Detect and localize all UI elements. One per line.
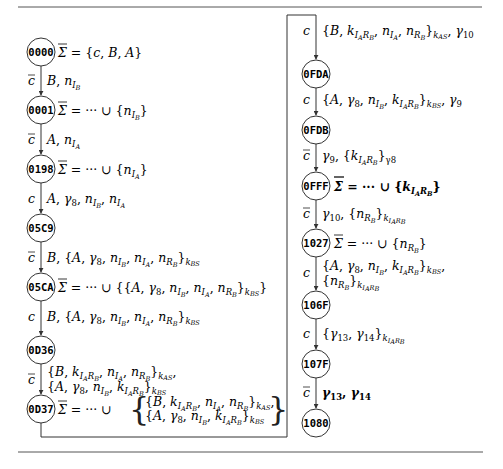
svg-text:}: } <box>268 390 288 428</box>
edge-label-0001-0198: c A, nIA <box>28 132 80 151</box>
svg-text:{B, kIARB, nIA, nRB}kAS, γ10: {B, kIARB, nIA, nRB}kAS, γ10 <box>322 23 474 42</box>
state-id-label: 05C9 <box>28 222 53 234</box>
sigma-annotation-0001: Σ = ··· ∪ {nIB} <box>57 102 148 122</box>
edge-label-05CA-0D36: c B, {A, γ8, nIB, nIA, nRB}kBS <box>28 309 200 328</box>
svg-text:B, {A, γ8, nIB, nIA, nRB}kBS: B, {A, γ8, nIB, nIA, nRB}kBS <box>46 250 200 269</box>
edge-label-106F-107F: c {γ13, γ14}kIARB <box>303 326 405 346</box>
svg-text:{A, γ8, nIB, kIARB}kBS, γ9: {A, γ8, nIB, kIARB}kBS, γ9 <box>322 92 462 111</box>
svg-text:Σ = ··· ∪ {nIB}: Σ = ··· ∪ {nIB} <box>57 103 148 122</box>
svg-text:Σ = ··· ∪ {nRB}: Σ = ··· ∪ {nRB} <box>333 236 427 255</box>
state-id-label: 0198 <box>28 163 53 175</box>
edge-label-0D36-0D37: c {B, kIARB, nIA, nRB}kAS, {A, γ8, nIB, … <box>28 364 176 398</box>
state-id-label: 0001 <box>28 104 53 116</box>
svg-text:Σ = ··· ∪ {nIA}: Σ = ··· ∪ {nIA} <box>57 162 148 181</box>
state-node-05C9: 05C9 <box>27 214 55 242</box>
edge-label-05C9-05CA: c B, {A, γ8, nIB, nIA, nRB}kBS <box>28 250 200 269</box>
edge-label-107F-1080: c γ13, γ14 <box>303 385 371 402</box>
sigma-annotation-0000: Σ = {c, B, A} <box>57 44 142 60</box>
state-node-0000: 0000 <box>27 38 55 66</box>
edge-label-0000-0001: c B, nIB <box>28 73 81 92</box>
svg-text:A, nIA: A, nIA <box>46 132 80 151</box>
svg-text:c: c <box>28 309 35 324</box>
svg-text:Σ = ··· ∪ {kIARB}: Σ = ··· ∪ {kIARB} <box>333 179 441 198</box>
state-id-label: 0000 <box>28 46 53 58</box>
edge-label-0FDB-0FFF: c γ9, {kIARB}γ8 <box>303 148 396 167</box>
svg-text:A, γ8, nIB, nIA: A, γ8, nIB, nIA <box>46 191 125 210</box>
state-id-label: 1027 <box>303 237 328 249</box>
svg-text:c: c <box>303 92 310 107</box>
state-node-107F: 107F <box>302 350 330 378</box>
edge-label-0D37-0FDA: c {B, kIARB, nIA, nRB}kAS, γ10 <box>303 23 474 42</box>
edge-label-0198-05C9: c A, γ8, nIB, nIA <box>28 191 125 210</box>
svg-text:{A, γ8, nIB, kIARB}kBS: {A, γ8, nIB, kIARB}kBS <box>145 408 265 427</box>
sigma-annotation-0198: Σ = ··· ∪ {nIA} <box>57 161 148 181</box>
state-node-05CA: 05CA <box>27 273 55 301</box>
state-id-label: 05CA <box>28 281 54 293</box>
edge-label-1027-106F: c {A, γ8, nIB, kIARB}kBS, {nRB}kIARB <box>303 258 445 293</box>
state-id-label: 0D37 <box>28 403 53 415</box>
edge-label-0FDA-0FDB: c {A, γ8, nIB, kIARB}kBS, γ9 <box>303 92 462 111</box>
svg-text:Σ = ··· ∪ {{A, γ8, nIB, nIA, n: Σ = ··· ∪ {{A, γ8, nIB, nIA, nRB}kBS} <box>57 280 267 299</box>
svg-text:{nRB}kIARB: {nRB}kIARB <box>322 273 380 293</box>
svg-text:Σ = ··· ∪: Σ = ··· ∪ <box>57 402 112 417</box>
state-node-0D36: 0D36 <box>27 336 55 364</box>
edge-label-0FFF-1027: c γ10, {nRB}kIARB <box>303 206 406 226</box>
svg-text:Σ = {c, B, A}: Σ = {c, B, A} <box>57 45 142 60</box>
state-id-label: 0D36 <box>28 344 53 356</box>
svg-text:c: c <box>303 23 310 38</box>
state-id-label: 0FFF <box>303 180 328 192</box>
state-node-0FDA: 0FDA <box>302 60 330 88</box>
state-id-label: 0FDA <box>303 68 329 80</box>
svg-text:B, nIB: B, nIB <box>46 73 81 92</box>
svg-text:c: c <box>28 191 35 206</box>
state-id-label: 0FDB <box>303 124 328 136</box>
svg-text:{A, γ8, nIB, kIARB}kBS,: {A, γ8, nIB, kIARB}kBS, <box>322 258 445 277</box>
state-node-0198: 0198 <box>27 155 55 183</box>
state-node-106F: 106F <box>302 291 330 319</box>
state-id-label: 1080 <box>303 417 328 429</box>
state-diagram: 00000001019805C905CA0D360D370FDA0FDB0FFF… <box>0 0 503 469</box>
state-node-0FDB: 0FDB <box>302 116 330 144</box>
svg-text:B, {A, γ8, nIB, nIA, nRB}kBS: B, {A, γ8, nIB, nIA, nRB}kBS <box>46 309 200 328</box>
state-id-label: 106F <box>303 299 328 311</box>
state-node-0001: 0001 <box>27 96 55 124</box>
sigma-annotation-0FFF: Σ = ··· ∪ {kIARB} <box>333 177 441 198</box>
state-node-0D37: 0D37 <box>27 395 55 423</box>
sigma-annotation-0D37: Σ = ··· ∪ { {B, kIARB, nIA, nRB}kAS, {A,… <box>57 390 288 428</box>
sigma-annotation-05CA: Σ = ··· ∪ {{A, γ8, nIB, nIA, nRB}kBS} <box>57 279 267 299</box>
state-node-1080: 1080 <box>302 409 330 437</box>
state-node-1027: 1027 <box>302 229 330 257</box>
svg-text:{γ13, γ14}kIARB: {γ13, γ14}kIARB <box>322 326 405 346</box>
state-node-0FFF: 0FFF <box>302 172 330 200</box>
svg-text:γ13, γ14: γ13, γ14 <box>322 385 371 402</box>
svg-text:c: c <box>303 265 310 280</box>
sigma-annotation-1027: Σ = ··· ∪ {nRB} <box>333 235 427 255</box>
state-id-label: 107F <box>303 358 328 370</box>
svg-text:γ10, {nRB}kIARB: γ10, {nRB}kIARB <box>322 206 406 226</box>
svg-text:c: c <box>303 326 310 341</box>
svg-text:γ9, {kIARB}γ8: γ9, {kIARB}γ8 <box>322 148 396 167</box>
sigma-symbol: Σ <box>57 45 67 60</box>
